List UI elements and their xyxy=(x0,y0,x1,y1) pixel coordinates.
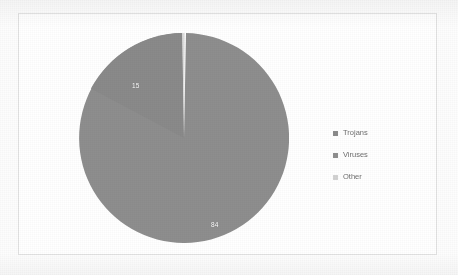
legend-item-other[interactable]: Other xyxy=(333,166,429,188)
legend-item-trojans[interactable]: Trojans xyxy=(333,122,429,144)
legend-swatch-icon-viruses xyxy=(333,153,338,158)
pie-svg xyxy=(79,33,289,243)
legend-label-viruses: Viruses xyxy=(343,151,368,159)
pie-chart: 15 84 xyxy=(79,33,289,243)
chart-frame: 15 84 Trojans Viruses Other xyxy=(18,13,437,255)
pie-label-trojans: 84 xyxy=(211,222,219,229)
screenshot-root: 15 84 Trojans Viruses Other xyxy=(0,0,458,275)
legend-swatch-icon-other xyxy=(333,175,338,180)
legend-item-viruses[interactable]: Viruses xyxy=(333,144,429,166)
chart-legend: Trojans Viruses Other xyxy=(333,122,429,188)
plot-area: 15 84 Trojans Viruses Other xyxy=(19,14,438,256)
legend-label-other: Other xyxy=(343,173,362,181)
legend-swatch-icon-trojans xyxy=(333,131,338,136)
legend-label-trojans: Trojans xyxy=(343,129,368,137)
pie-label-viruses: 15 xyxy=(132,83,140,90)
